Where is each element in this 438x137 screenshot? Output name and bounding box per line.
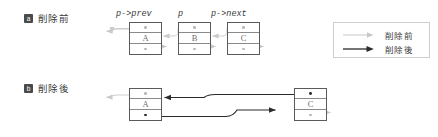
node-a-next-cell: [130, 44, 161, 54]
node-a-after-next-cell: [130, 110, 161, 120]
node-c: C: [227, 22, 260, 55]
node-b-prev-cell: [179, 23, 210, 33]
legend-before-arrow-icon: [342, 30, 376, 40]
node-a-prev-cell: [130, 23, 161, 33]
node-b-prev-dot: [193, 26, 195, 28]
current-pointer-label: p: [178, 9, 183, 19]
node-a-after-prev-dot: [144, 92, 146, 94]
node-c-prev-cell: [228, 23, 259, 33]
panel-b-caption-text: 削除後: [38, 81, 69, 95]
node-c-data-cell: C: [228, 33, 259, 44]
arrow-a-next-to-c: [145, 110, 276, 117]
node-b-next-dot: [193, 48, 195, 50]
node-c-after-letter: C: [308, 99, 314, 109]
node-c-next-cell: [228, 44, 259, 54]
node-c-next-dot: [242, 48, 244, 50]
node-c-after-next-dot: [309, 114, 311, 116]
node-a-after-next-dot: [144, 114, 147, 117]
arrow-c-prev-to-a: [165, 95, 295, 98]
node-c-after-data-cell: C: [295, 99, 326, 110]
legend-after-arrow-icon: [342, 44, 376, 54]
node-c-after-prev-dot: [309, 92, 312, 95]
node-a-after-letter: A: [142, 99, 148, 109]
panel-b-after-arrows: [145, 95, 294, 117]
panel-a-caption: a 削除前: [24, 11, 69, 25]
node-c-after-next-cell: [295, 110, 326, 120]
legend-after-label: 削除後: [385, 43, 413, 55]
prev-pointer-label: p->prev: [116, 9, 152, 19]
node-c-after-prev-cell: [295, 89, 326, 99]
figure-root: a 削除前 p->prev p p->next A B C: [0, 0, 438, 137]
node-a-after: A: [129, 88, 162, 121]
node-a-next-dot: [144, 48, 146, 50]
panel-a-caption-text: 削除前: [38, 11, 69, 25]
node-a-after-prev-cell: [130, 89, 161, 99]
legend-item-after: 削除後: [342, 43, 413, 55]
node-b-letter: B: [192, 33, 198, 43]
legend-item-before: 削除前: [342, 29, 413, 41]
node-b-data-cell: B: [179, 33, 210, 44]
panel-a-badge: a: [24, 14, 33, 23]
legend-before-label: 削除前: [385, 29, 413, 41]
arrow-c-prev-to-b: [213, 29, 228, 37]
node-a-letter: A: [142, 33, 148, 43]
panel-b-badge: b: [24, 84, 33, 93]
node-a-data-cell: A: [130, 33, 161, 44]
legend: 削除前 削除後: [333, 22, 430, 58]
node-a-after-data-cell: A: [130, 99, 161, 110]
panel-b-caption: b 削除後: [24, 81, 69, 95]
node-a: A: [129, 22, 162, 55]
node-c-letter: C: [241, 33, 247, 43]
node-b-next-cell: [179, 44, 210, 54]
node-a-prev-dot: [144, 26, 146, 28]
next-pointer-label: p->next: [211, 9, 247, 19]
arrow-b-prev-to-a: [164, 29, 179, 37]
arrow-b-a-prev-out: [107, 95, 130, 97]
arrow-a-prev-out: [107, 29, 130, 31]
node-c-after: C: [294, 88, 327, 121]
node-c-prev-dot: [242, 26, 244, 28]
node-b: B: [178, 22, 211, 55]
